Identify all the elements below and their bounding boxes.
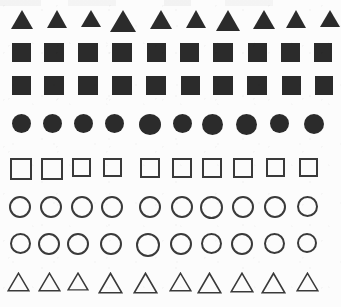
outlined-circle-icon [264,196,286,218]
filled-square-cell [146,76,166,95]
shape-row-1 [0,10,341,40]
outlined-triangle-icon [230,272,254,293]
outlined-circle-cell [67,233,89,255]
outlined-circle-cell [10,233,31,254]
outlined-triangle-cell [261,272,286,294]
outlined-triangle-cell [197,272,222,294]
filled-circle-cell [173,114,192,133]
outlined-circle-cell [171,196,193,218]
filled-circle-icon [12,114,31,133]
filled-square-icon [146,76,166,95]
filled-square-icon [12,43,31,62]
outlined-circle-cell [264,196,286,218]
filled-square-cell [282,76,301,95]
outlined-square-cell [266,158,285,177]
filled-square-icon [248,43,267,62]
outlined-circle-cell [136,233,160,257]
outlined-circle-icon [139,196,161,218]
outlined-triangle-icon [197,272,222,294]
outlined-circle-cell [231,233,253,255]
filled-square-cell [314,43,332,62]
filled-triangle-icon [11,10,33,29]
filled-square-icon [282,76,301,95]
outlined-circle-cell [101,196,123,218]
filled-square-cell [248,43,267,62]
outlined-circle-icon [170,233,192,255]
outlined-circle-cell [201,233,222,254]
outlined-square-cell [103,158,122,177]
filled-circle-cell [236,114,257,135]
outlined-circle-cell [297,196,318,217]
outlined-triangle-cell [133,272,158,294]
filled-triangle-icon [320,10,340,27]
outlined-triangle-cell [7,272,30,292]
outlined-triangle-cell [169,272,192,292]
outlined-square-cell [10,158,32,180]
filled-triangle-icon [47,10,67,28]
filled-square-icon [180,43,199,62]
filled-square-icon [44,43,64,62]
outlined-circle-icon [264,233,285,254]
filled-square-icon [12,76,31,95]
shape-row-7 [0,233,341,263]
filled-triangle-icon [216,10,240,31]
outlined-circle-icon [297,196,318,217]
filled-square-icon [315,76,333,95]
filled-square-cell [180,43,199,62]
outlined-circle-icon [10,233,31,254]
shape-row-8 [0,272,341,302]
filled-square-icon [78,43,98,62]
outlined-circle-icon [232,196,254,218]
outlined-square-cell [202,158,222,178]
filled-square-icon [112,76,132,95]
outlined-square-icon [140,158,160,178]
filled-square-cell [281,43,300,62]
outlined-circle-cell [100,233,122,255]
shape-row-4 [0,114,341,144]
filled-triangle-icon [186,10,206,28]
outlined-triangle-icon [38,272,61,292]
outlined-triangle-icon [7,272,30,292]
outlined-circle-icon [200,196,223,219]
outlined-circle-icon [9,196,31,218]
filled-circle-cell [202,114,223,135]
filled-triangle-cell [186,10,206,28]
shape-row-3 [0,76,341,106]
filled-circle-icon [139,114,161,135]
outlined-triangle-icon [133,272,158,294]
outlined-circle-cell [40,196,62,218]
filled-triangle-icon [110,10,136,32]
outlined-circle-icon [171,196,193,218]
filled-circle-icon [105,114,124,133]
filled-circle-cell [270,114,289,133]
outlined-circle-icon [297,233,317,253]
outlined-circle-cell [139,196,161,218]
outlined-circle-cell [71,196,93,218]
outlined-square-icon [202,158,222,178]
filled-square-icon [247,76,267,95]
filled-triangle-icon [286,10,306,28]
outlined-triangle-cell [67,272,89,291]
outlined-circle-icon [100,233,122,255]
filled-triangle-cell [47,10,68,28]
outlined-triangle-icon [67,272,89,291]
outlined-triangle-cell [98,272,123,294]
filled-triangle-cell [286,10,307,28]
outlined-circle-icon [136,233,160,257]
outlined-circle-icon [101,196,123,218]
filled-triangle-cell [81,10,101,27]
filled-triangle-icon [150,10,172,29]
filled-triangle-cell [11,10,33,29]
outlined-circle-icon [231,233,253,255]
filled-circle-icon [43,114,62,133]
filled-circle-cell [43,114,62,133]
filled-square-icon [44,76,64,95]
filled-square-cell [12,76,31,95]
outlined-triangle-icon [169,272,192,292]
filled-circle-cell [12,114,31,133]
outlined-square-icon [172,158,192,178]
filled-circle-icon [270,114,289,133]
filled-triangle-icon [253,10,275,29]
outlined-square-cell [72,158,91,177]
outlined-square-cell [233,158,253,178]
